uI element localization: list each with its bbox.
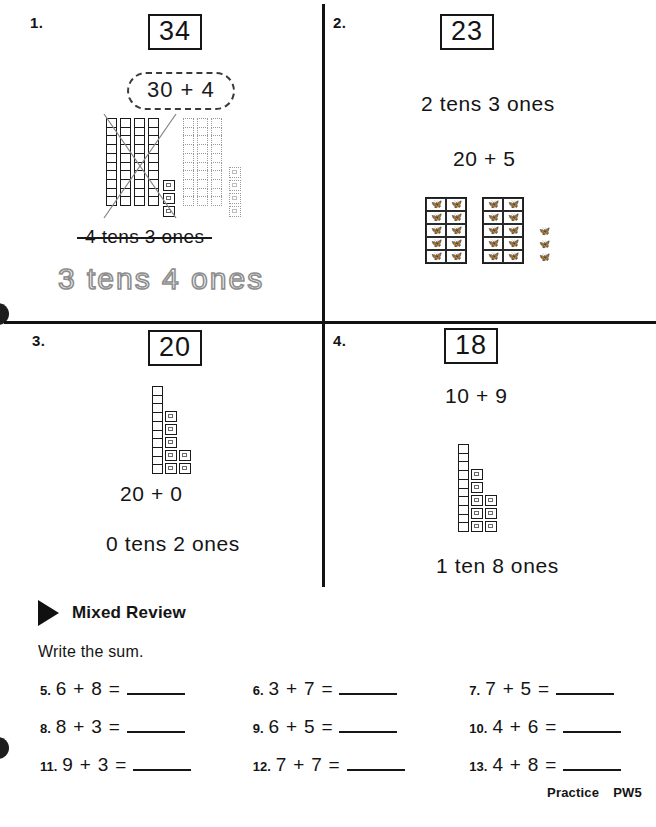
problem-2-line-1: 2 tens 3 ones — [421, 92, 555, 116]
bug-stamp-icon: 🦋 — [483, 198, 503, 211]
review-item-11: 11. 9 + 3 = — [0, 754, 227, 792]
problem-1-numeral: 34 — [148, 14, 202, 50]
bug-stamp-icon: 🦋 — [446, 250, 466, 263]
review-item-5: 5. 6 + 8 = — [0, 678, 227, 716]
bug-stamp-icon: 🦋 — [426, 224, 446, 237]
bug-stamp-icon: 🦋 — [483, 211, 503, 224]
review-item-number: 10. — [469, 721, 487, 736]
problem-3: 3. 20 20 + 0 0 tens 2 ones — [0, 324, 322, 587]
mixed-review-problems: 5. 6 + 8 = 6. 3 + 7 = 7. 7 + 5 = 8. — [0, 678, 656, 792]
answer-blank[interactable] — [563, 716, 621, 733]
review-item-number: 5. — [40, 683, 51, 698]
ten-rod — [134, 118, 145, 206]
problem-2-stamp-diagram: 🦋 🦋 🦋 🦋 🦋 🦋 🦋 🦋 🦋 🦋 🦋 🦋 🦋 🦋 🦋 🦋 🦋 — [425, 197, 550, 264]
problem-2-numeral: 23 — [440, 14, 494, 50]
bug-stamp-icon: 🦋 — [446, 224, 466, 237]
answer-blank[interactable] — [127, 678, 185, 695]
problem-4-block-diagram — [458, 444, 497, 532]
review-item-question: 8 + 3 = — [56, 716, 121, 738]
bug-stamp-icon: 🦋 — [503, 198, 523, 211]
traced-unit-cubes — [229, 118, 241, 217]
unit-cubes-column — [471, 469, 483, 532]
review-item-12: 12. 7 + 7 = — [227, 754, 440, 792]
answer-blank[interactable] — [339, 716, 397, 733]
review-item-10: 10. 4 + 6 = — [439, 716, 656, 754]
problem-3-line-2: 0 tens 2 ones — [106, 532, 240, 556]
bug-stamp-icon: 🦋 — [483, 237, 503, 250]
answer-blank[interactable] — [556, 678, 614, 695]
bug-stamp-icon: 🦋 — [426, 198, 446, 211]
unit-cubes-column — [165, 411, 177, 474]
ten-rod — [106, 118, 117, 206]
review-item-6: 6. 3 + 7 = — [227, 678, 440, 716]
problem-3-numeral: 20 — [148, 330, 202, 366]
review-item-7: 7. 7 + 5 = — [439, 678, 656, 716]
problem-1-block-diagram — [106, 118, 241, 217]
review-item-number: 6. — [253, 683, 264, 698]
review-item-number: 13. — [469, 759, 487, 774]
bug-stamp-icon: 🦋 — [539, 238, 550, 251]
footer-page-code: PW5 — [613, 785, 642, 800]
problem-2-number: 2. — [333, 14, 347, 31]
review-item-number: 9. — [253, 721, 264, 736]
ten-rod — [458, 444, 469, 532]
review-item-number: 11. — [40, 759, 57, 774]
bug-stamp-icon: 🦋 — [446, 237, 466, 250]
footer-label: Practice — [547, 785, 599, 800]
bug-stamp-icon: 🦋 — [503, 250, 523, 263]
review-item-question: 9 + 3 = — [62, 754, 127, 776]
bug-stamp-icon: 🦋 — [483, 250, 503, 263]
problem-4-line-1: 10 + 9 — [445, 384, 508, 408]
review-item-number: 7. — [469, 683, 480, 698]
answer-blank[interactable] — [347, 754, 405, 771]
unit-cubes — [163, 118, 175, 217]
problem-1-struck-answer: 4 tens 3 ones — [85, 226, 204, 248]
problem-1-traced-answer: 3 tens 4 ones — [58, 262, 264, 296]
problem-3-block-diagram — [152, 386, 191, 474]
page-footer: Practice PW5 — [547, 785, 642, 800]
review-item-8: 8. 8 + 3 = — [0, 716, 227, 754]
bug-stamp-icon: 🦋 — [503, 224, 523, 237]
bug-stamp-icon: 🦋 — [426, 237, 446, 250]
bug-stamp-icon: 🦋 — [503, 211, 523, 224]
problem-1-expression-oval: 30 + 4 — [127, 72, 235, 110]
ten-rod — [148, 118, 159, 206]
bug-stamp-icon: 🦋 — [426, 250, 446, 263]
traced-ten-rods — [183, 118, 222, 206]
problem-3-line-1: 20 + 0 — [120, 482, 183, 506]
strikethrough-line — [77, 237, 212, 239]
problem-3-number: 3. — [32, 332, 46, 349]
ten-rod — [120, 118, 131, 206]
problem-4-number: 4. — [333, 332, 347, 349]
stamp-group: 🦋 🦋 🦋 🦋 🦋 🦋 🦋 🦋 🦋 🦋 — [482, 197, 524, 264]
bug-stamp-icon: 🦋 — [503, 237, 523, 250]
problem-1: 1. 34 30 + 4 — [0, 0, 322, 321]
review-item-question: 7 + 7 = — [276, 754, 341, 776]
answer-blank[interactable] — [127, 716, 185, 733]
problem-2: 2. 23 2 tens 3 ones 20 + 5 🦋 🦋 🦋 🦋 🦋 🦋 🦋… — [325, 0, 656, 321]
ten-rod — [152, 386, 163, 474]
review-item-number: 8. — [40, 721, 51, 736]
review-item-question: 3 + 7 = — [269, 678, 334, 700]
problem-1-number: 1. — [30, 14, 44, 31]
answer-blank[interactable] — [339, 678, 397, 695]
mixed-review-instruction: Write the sum. — [38, 643, 144, 661]
triangle-bullet-icon — [38, 600, 59, 626]
review-item-question: 6 + 5 = — [269, 716, 334, 738]
problem-4: 4. 18 10 + 9 1 ten 8 ones — [325, 324, 656, 587]
review-item-question: 6 + 8 = — [56, 678, 121, 700]
answer-blank[interactable] — [563, 754, 621, 771]
review-item-question: 7 + 5 = — [485, 678, 550, 700]
stamp-group: 🦋 🦋 🦋 🦋 🦋 🦋 🦋 🦋 🦋 🦋 — [425, 197, 467, 264]
review-item-question: 4 + 6 = — [492, 716, 557, 738]
problem-row: 5. 6 + 8 = 6. 3 + 7 = 7. 7 + 5 = — [0, 678, 656, 716]
bug-stamp-icon: 🦋 — [446, 198, 466, 211]
mixed-review-title: Mixed Review — [72, 603, 186, 623]
bug-stamp-icon: 🦋 — [539, 225, 550, 238]
review-item-question: 4 + 8 = — [492, 754, 557, 776]
review-item-number: 12. — [253, 759, 271, 774]
unit-cubes-column — [485, 495, 497, 532]
answer-blank[interactable] — [133, 754, 191, 771]
bug-stamp-icon: 🦋 — [539, 251, 550, 264]
problem-2-line-2: 20 + 5 — [453, 147, 516, 171]
